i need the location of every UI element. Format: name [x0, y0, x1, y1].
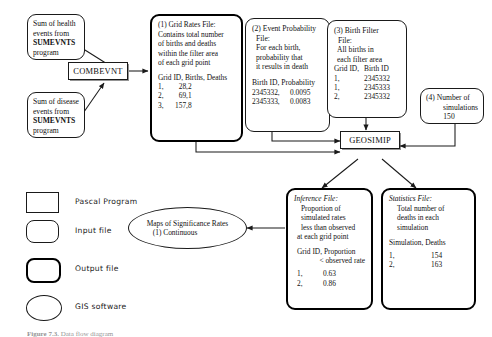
table-row: 2345333, 0.0083 [252, 97, 310, 106]
birth-filter-header-birth: Birth ID [364, 64, 390, 73]
legend-shape-pascal-program [26, 192, 59, 213]
grid-rates-r1-births: 69, [175, 91, 188, 100]
sum-health-line4: program [33, 48, 79, 58]
statistics-desc1: Total number of [389, 204, 468, 213]
grid-rates-desc2: of births and deaths [158, 39, 235, 48]
gis-line1: Maps of Significance Rates [147, 219, 228, 228]
output-file-grid-rates[interactable]: (1) Grid Rates File: Contains total numb… [150, 14, 243, 142]
birth-filter-title2: File: [334, 36, 400, 46]
statistics-title: Statistics File: [389, 194, 468, 203]
legend-label-gis-software: GIS software [75, 302, 127, 311]
sum-disease-line4: program [33, 126, 79, 136]
inference-desc1: Proportion of [294, 204, 365, 213]
event-prob-title: (2) Event Probability [252, 24, 323, 34]
arrow-gridrates-to-geosimip [196, 142, 340, 152]
grid-rates-r0-births: 28, [175, 82, 188, 91]
inference-r1-id: 2, [297, 279, 323, 288]
figure-caption: Figure 7.3. Data flow diagram [27, 330, 467, 337]
table-row: 2, 0.86 [297, 279, 336, 288]
grid-rates-title: (1) Grid Rates File: [158, 20, 235, 29]
birth-filter-header-grid: Grid ID, [334, 64, 364, 73]
input-file-event-probability[interactable]: (2) Event Probability File: For each bir… [245, 18, 330, 132]
birth-filter-r1-grid: 1, [334, 83, 364, 92]
sum-health-line3: SUMEVNTS [33, 38, 79, 48]
event-prob-r0-id: 2345332, [252, 88, 290, 97]
legend-shape-gis-software [26, 295, 62, 321]
program-combevnt[interactable]: COMBEVNT [68, 62, 128, 80]
diagram-canvas: Sum of health events from SUMEVNTS progr… [0, 0, 492, 337]
birth-filter-table: Grid ID, Birth ID 1, 2345332 1, 2345333 … [334, 64, 390, 101]
legend-shape-output-file [26, 258, 61, 283]
inference-desc4: at each grid point [294, 232, 365, 241]
birth-filter-r0-grid: 1, [334, 74, 364, 83]
table-row: 2345332, 0.0095 [252, 88, 310, 97]
sum-disease-line2: events from [33, 107, 79, 117]
inference-table-header-a: Grid ID, Proportion [294, 247, 365, 256]
gis-line2: (1) Continuous [147, 228, 228, 237]
output-file-inference[interactable]: Inference File: Proportion of simulated … [286, 188, 373, 310]
num-sim-value: 150 [426, 112, 478, 122]
event-prob-title2: File: [252, 34, 323, 44]
grid-rates-r0-id: 1, [158, 82, 175, 91]
inference-r1-value: 0.86 [323, 279, 336, 288]
statistics-table: 1, 154 2, 163 [389, 251, 442, 269]
inference-desc3: less than observed [294, 223, 365, 232]
statistics-r0-sim: 1, [389, 251, 431, 260]
sum-disease-line1: Sum of disease [33, 97, 79, 107]
input-file-number-of-simulations[interactable]: (4) Number of simulations 150 [420, 88, 484, 124]
output-file-statistics[interactable]: Statistics File: Total number of deaths … [381, 188, 476, 310]
grid-rates-r0-deaths: 2 [188, 82, 192, 91]
birth-filter-title: (3) Birth Filter [334, 26, 400, 36]
input-file-sum-health[interactable]: Sum of health events from SUMEVNTS progr… [27, 14, 85, 60]
table-row: 1, 2345333 [334, 83, 390, 92]
arrow-simulations-to-geosimip [400, 124, 455, 146]
figure-caption-text: Data flow diagram [61, 330, 113, 337]
table-row: 2, 69, 1 [158, 91, 192, 100]
table-row: 3, 157, 8 [158, 101, 192, 110]
statistics-r1-sim: 2, [389, 260, 431, 269]
sum-health-line1: Sum of health [33, 19, 79, 29]
input-file-birth-filter[interactable]: (3) Birth Filter File: All births in eac… [327, 20, 407, 118]
geosimip-label: GEOSIMIP [349, 135, 391, 145]
legend-label-output-file: Output file [75, 264, 119, 273]
birth-filter-r2-grid: 2, [334, 92, 364, 101]
grid-rates-desc4: of each grid point [158, 58, 235, 67]
event-prob-table-header: Birth ID, Probability [252, 78, 323, 88]
birth-filter-desc2: each filter area [334, 55, 400, 65]
grid-rates-r1-id: 2, [158, 91, 175, 100]
grid-rates-desc1: Contains total number [158, 30, 235, 39]
inference-table: 1, 0.63 2, 0.86 [297, 269, 336, 287]
event-prob-r0-value: 0.0095 [290, 88, 310, 97]
num-sim-title2: simulations [426, 103, 478, 113]
table-row: 2, 2345332 [334, 92, 390, 101]
table-row: 2, 163 [389, 260, 442, 269]
sum-disease-line3: SUMEVNTS [33, 116, 79, 126]
grid-rates-r2-id: 3, [158, 101, 175, 110]
table-row: 1, 0.63 [297, 269, 336, 278]
legend-label-pascal-program: Pascal Program [75, 197, 137, 206]
grid-rates-table: 1, 28, 2 2, 69, 1 3, 157, 8 [158, 82, 192, 110]
grid-rates-desc3: within the filter area [158, 49, 235, 58]
event-prob-desc2: probability that [252, 53, 323, 63]
table-row: 1, 2345332 [334, 74, 390, 83]
grid-rates-r2-deaths: 8 [188, 101, 192, 110]
birth-filter-r0-birth: 2345332 [364, 74, 390, 83]
event-prob-r1-value: 0.0083 [290, 97, 310, 106]
inference-table-header-b: < observed rate [294, 256, 365, 265]
birth-filter-r1-birth: 2345333 [364, 83, 390, 92]
inference-title: Inference File: [294, 194, 365, 203]
sum-health-line2: events from [33, 29, 79, 39]
statistics-desc2: deaths in each [389, 213, 468, 222]
birth-filter-desc1: All births in [334, 45, 400, 55]
legend-shape-input-file [26, 220, 59, 243]
event-prob-r1-id: 2345333, [252, 97, 290, 106]
num-sim-title: (4) Number of [426, 93, 478, 103]
program-geosimip[interactable]: GEOSIMIP [340, 131, 400, 149]
statistics-r1-deaths: 163 [431, 260, 442, 269]
statistics-desc3: simulation [389, 223, 468, 232]
gis-software-maps[interactable]: Maps of Significance Rates (1) Continuou… [128, 207, 247, 249]
statistics-r0-deaths: 154 [431, 251, 442, 260]
grid-rates-table-header: Grid ID, Births, Deaths [158, 73, 235, 82]
input-file-sum-disease[interactable]: Sum of disease events from SUMEVNTS prog… [27, 92, 85, 138]
inference-r0-id: 1, [297, 269, 323, 278]
